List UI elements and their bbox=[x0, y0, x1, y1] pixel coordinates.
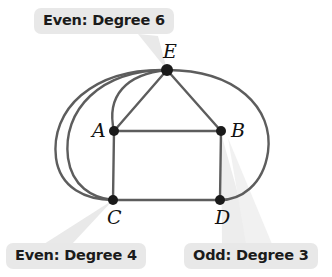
pointer-to-c bbox=[44, 200, 113, 244]
edge-B-D bbox=[220, 131, 221, 200]
vertex-label-D: D bbox=[214, 206, 230, 228]
edge-E-A bbox=[114, 70, 167, 131]
edge-E-B bbox=[167, 70, 221, 131]
edge-A-C bbox=[113, 131, 114, 200]
callout-degree-odd-3: Odd: Degree 3 bbox=[184, 243, 318, 269]
callout-degree-even-4: Even: Degree 4 bbox=[6, 243, 146, 269]
figure-canvas: A B C D E Even: Degree 6 Even: Degree 4 … bbox=[0, 0, 332, 277]
vertex-B[interactable] bbox=[216, 126, 226, 136]
callout-degree-even-6: Even: Degree 6 bbox=[34, 8, 174, 34]
vertex-label-A: A bbox=[90, 119, 106, 141]
vertex-D[interactable] bbox=[215, 195, 225, 205]
vertex-A[interactable] bbox=[109, 126, 119, 136]
vertex-C[interactable] bbox=[108, 195, 118, 205]
vertex-label-B: B bbox=[230, 119, 245, 141]
straight-edges bbox=[113, 70, 221, 200]
edge-E-D-arc-right bbox=[167, 70, 269, 200]
vertex-label-E: E bbox=[162, 40, 177, 62]
graph-diagram: A B C D E bbox=[0, 0, 332, 277]
vertex-label-C: C bbox=[107, 206, 122, 228]
vertex-E[interactable] bbox=[161, 64, 173, 76]
edge-E-C-arc-mid bbox=[67, 70, 167, 200]
